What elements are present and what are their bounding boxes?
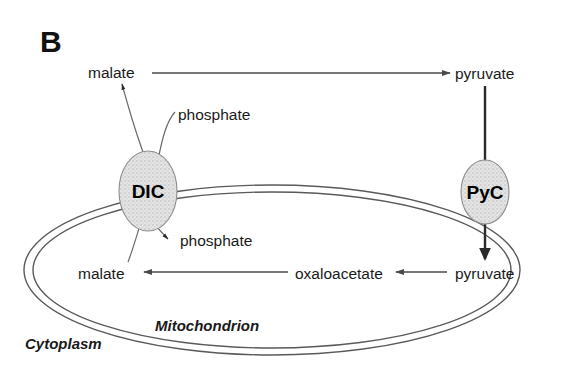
- diagram-canvas: B malate phosphate pyruvate phosphate ma…: [0, 0, 576, 386]
- label-malate-matrix: malate: [78, 265, 125, 282]
- label-pyruvate-matrix: pyruvate: [455, 265, 514, 282]
- label-compartment-cytoplasm: Cytoplasm: [25, 335, 102, 352]
- label-transporter-dic: DIC: [132, 181, 165, 202]
- label-pyruvate-cytoplasm: pyruvate: [455, 65, 514, 82]
- label-malate-cytoplasm: malate: [88, 64, 135, 81]
- leader-dic-to-malate-cytoplasm: [122, 84, 146, 160]
- label-phosphate-cytoplasm: phosphate: [178, 106, 250, 123]
- leader-dic-to-phosphate-cytoplasm: [158, 112, 175, 160]
- label-transporter-pyc: PyC: [467, 182, 504, 203]
- label-compartment-mitochondrion: Mitochondrion: [155, 317, 259, 334]
- label-oxaloacetate-matrix: oxaloacetate: [295, 265, 383, 282]
- pathway-diagram-panel-b: B malate phosphate pyruvate phosphate ma…: [0, 0, 576, 386]
- panel-label-b: B: [40, 25, 62, 58]
- label-phosphate-matrix: phosphate: [180, 232, 252, 249]
